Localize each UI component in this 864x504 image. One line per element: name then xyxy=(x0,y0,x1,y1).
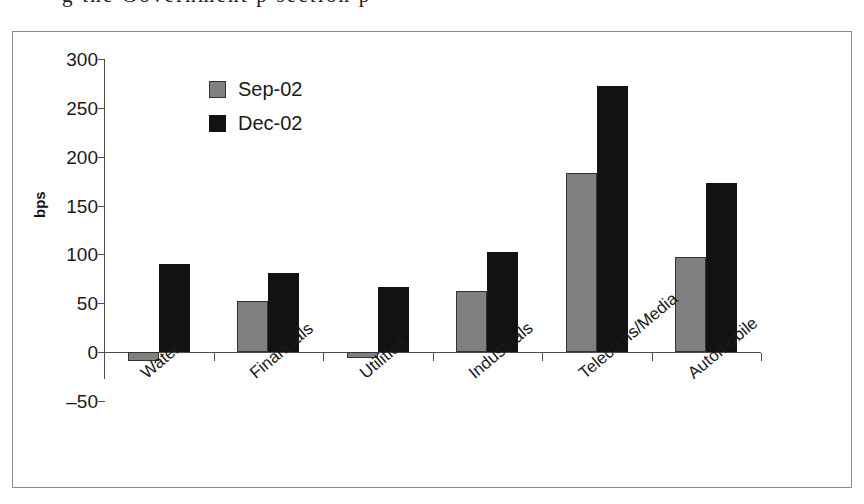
x-tick-mark xyxy=(104,353,105,361)
x-tick-mark xyxy=(323,353,324,361)
y-tick-label: 200 xyxy=(36,148,98,167)
chart-plot-area: bps 300250200150100500–50 WaterFinancial… xyxy=(13,32,853,489)
bar-water-dec-02 xyxy=(159,264,190,352)
legend-swatch-dec-02-icon xyxy=(209,115,226,132)
legend-label-sep-02: Sep-02 xyxy=(238,79,303,99)
y-tick-label: –50 xyxy=(36,392,98,411)
x-tick-mark xyxy=(214,353,215,361)
y-tick-mark xyxy=(98,59,105,60)
y-tick-mark xyxy=(98,206,105,207)
y-tick-label: 50 xyxy=(36,294,98,313)
x-tick-mark xyxy=(542,353,543,361)
y-tick-label: 300 xyxy=(36,50,98,69)
bar-financials-sep-02 xyxy=(237,301,268,352)
bar-telecoms-media-sep-02 xyxy=(566,173,597,352)
y-tick-mark xyxy=(98,157,105,158)
bar-industrials-sep-02 xyxy=(456,291,487,352)
figure-frame: bps 300250200150100500–50 WaterFinancial… xyxy=(12,31,852,488)
legend-item-sep-02[interactable]: Sep-02 xyxy=(209,79,303,99)
y-tick-mark xyxy=(98,303,105,304)
y-tick-mark xyxy=(98,401,105,402)
y-tick-mark xyxy=(98,108,105,109)
legend-swatch-sep-02-icon xyxy=(209,81,226,98)
y-tick-mark xyxy=(98,254,105,255)
clipped-text-line: g the Government p section p xyxy=(62,0,371,8)
legend-label-dec-02: Dec-02 xyxy=(238,113,302,133)
x-tick-mark xyxy=(433,353,434,361)
x-tick-mark xyxy=(652,353,653,361)
y-tick-label: 150 xyxy=(36,197,98,216)
x-tick-mark xyxy=(761,353,762,361)
y-tick-label: 250 xyxy=(36,99,98,118)
y-tick-label: 0 xyxy=(36,343,98,362)
bar-telecoms-media-dec-02 xyxy=(597,86,628,352)
clipped-text-fragment: g the Government p section p xyxy=(0,0,864,14)
y-tick-label: 100 xyxy=(36,245,98,264)
legend-item-dec-02[interactable]: Dec-02 xyxy=(209,113,303,133)
chart-legend: Sep-02 Dec-02 xyxy=(209,79,303,147)
